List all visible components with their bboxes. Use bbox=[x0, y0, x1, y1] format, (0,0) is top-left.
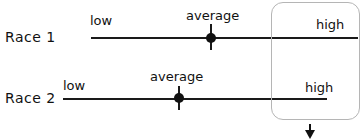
race-1-average-label: average bbox=[186, 9, 239, 22]
race-2-label: Race 2 bbox=[5, 91, 56, 105]
race-2-low-label: low bbox=[63, 79, 85, 92]
race-2-average-label: average bbox=[150, 70, 203, 83]
highlight-box bbox=[271, 2, 360, 120]
race-1-low-label: low bbox=[90, 14, 112, 27]
down-arrow-head-icon bbox=[305, 130, 315, 139]
race-2-average-dot bbox=[174, 93, 184, 103]
race-1-average-dot bbox=[206, 33, 216, 43]
race-1-label: Race 1 bbox=[5, 30, 56, 44]
